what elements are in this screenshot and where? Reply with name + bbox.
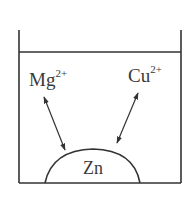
ion-charge-cu: 2+: [150, 63, 162, 75]
beaker-diagram: Mg2+ Cu2+ Zn: [0, 0, 189, 200]
ion-symbol-mg: Mg: [29, 69, 56, 90]
ion-charge-mg: 2+: [55, 67, 67, 79]
ion-symbol-cu: Cu: [128, 65, 151, 86]
metal-label-zn: Zn: [83, 158, 103, 178]
arrow-cu-zn: [117, 93, 138, 143]
ion-label-cu: Cu2+: [128, 63, 162, 86]
arrow-mg-zn: [44, 97, 65, 150]
ion-label-mg: Mg2+: [29, 67, 67, 90]
